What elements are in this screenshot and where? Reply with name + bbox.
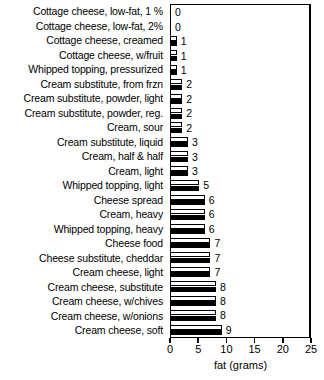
category-label: Cottage cheese, low-fat, 1 % [0, 4, 167, 19]
bar-row: 3 [171, 164, 309, 178]
x-axis-title: fat (grams) [170, 360, 311, 371]
bar-value-label: 1 [177, 36, 187, 47]
bar-value-label: 0 [171, 21, 181, 32]
bar-row: 8 [171, 294, 309, 308]
bar-value-label: 3 [188, 151, 198, 162]
x-tick-label: 20 [277, 344, 289, 355]
bar-row: 0 [171, 19, 309, 33]
bar-segment-solid [171, 157, 188, 162]
bar-row: 7 [171, 236, 309, 250]
bar-segment-solid [171, 243, 210, 248]
bar-value-label: 2 [182, 122, 192, 133]
bar-row: 6 [171, 193, 309, 207]
bar-value-label: 8 [216, 310, 226, 321]
category-label: Cream, light [0, 164, 167, 179]
bar-row: 8 [171, 308, 309, 322]
bar-segment-solid [171, 258, 210, 263]
bar-row: 6 [171, 222, 309, 236]
bar-pair: 7 [171, 238, 309, 249]
bars-layer: 00111222233356667778889 [171, 5, 309, 337]
bar-row: 1 [171, 48, 309, 62]
x-tick-label: 0 [167, 344, 173, 355]
bar-pair: 8 [171, 281, 309, 292]
bar-pair: 6 [171, 223, 309, 234]
category-label: Cheese spread [0, 193, 167, 208]
bar-row: 3 [171, 149, 309, 163]
fat-grams-bar-chart: Cottage cheese, low-fat, 1 %Cottage chee… [0, 0, 324, 380]
bar-row: 5 [171, 178, 309, 192]
bar-segment-solid [171, 128, 182, 133]
bar-row: 8 [171, 279, 309, 293]
bar-segment-solid [171, 215, 205, 220]
bar-value-label: 7 [210, 252, 220, 263]
bar-segment-solid [171, 272, 210, 277]
bar-value-label: 7 [210, 238, 220, 249]
bar-pair: 1 [171, 64, 309, 75]
bar-row: 2 [171, 92, 309, 106]
category-label: Whipped topping, light [0, 178, 167, 193]
category-label: Cream, sour [0, 120, 167, 135]
category-label: Cream cheese, soft [0, 323, 167, 338]
bar-pair: 9 [171, 324, 309, 335]
x-tick-label: 5 [195, 344, 201, 355]
bar-value-label: 6 [205, 224, 215, 235]
bar-value-label: 7 [210, 267, 220, 278]
bar-pair: 2 [171, 108, 309, 119]
bar-row: 0 [171, 5, 309, 19]
bar-segment-outline [171, 325, 222, 330]
bar-segment-solid [171, 114, 182, 119]
bar-value-label: 2 [182, 79, 192, 90]
category-label: Cream cheese, w/chives [0, 294, 167, 309]
bar-value-label: 0 [171, 7, 181, 18]
bar-segment-outline [171, 108, 182, 113]
bar-value-label: 8 [216, 296, 226, 307]
bar-pair: 7 [171, 252, 309, 263]
bar-pair: 1 [171, 50, 309, 61]
bar-row: 1 [171, 34, 309, 48]
bar-value-label: 5 [199, 180, 209, 191]
category-label: Cottage cheese, low-fat, 2% [0, 19, 167, 34]
bar-row: 6 [171, 207, 309, 221]
bar-value-label: 9 [222, 325, 232, 336]
bar-segment-solid [171, 171, 188, 176]
bar-pair: 3 [171, 137, 309, 148]
bar-segment-outline [171, 122, 182, 127]
category-label: Cream cheese, substitute [0, 280, 167, 295]
bar-segment-solid [171, 287, 216, 292]
bar-pair: 1 [171, 36, 309, 47]
bar-segment-solid [171, 186, 199, 191]
category-label: Cream cheese, w/onions [0, 309, 167, 324]
bar-pair: 0 [171, 21, 309, 32]
plot-area: 00111222233356667778889 [170, 4, 311, 338]
bar-segment-outline [171, 267, 210, 272]
bar-value-label: 6 [205, 195, 215, 206]
bar-segment-solid [171, 330, 222, 335]
bar-value-label: 1 [177, 65, 187, 76]
bar-segment-outline [171, 281, 216, 286]
x-tick-label: 10 [220, 344, 232, 355]
bar-segment-outline [171, 224, 205, 229]
bar-pair: 8 [171, 310, 309, 321]
category-label: Cheese substitute, cheddar [0, 251, 167, 266]
category-label: Cheese food [0, 236, 167, 251]
bar-value-label: 2 [182, 94, 192, 105]
bar-segment-outline [171, 79, 182, 84]
category-label: Cream cheese, light [0, 265, 167, 280]
bar-pair: 0 [171, 7, 309, 18]
category-label: Cream, half & half [0, 149, 167, 164]
bar-segment-outline [171, 195, 205, 200]
category-label: Cream substitute, from frzn [0, 77, 167, 92]
bar-row: 3 [171, 135, 309, 149]
bar-segment-outline [171, 252, 210, 257]
x-tick-label: 25 [305, 344, 317, 355]
bar-segment-solid [171, 301, 216, 306]
bar-segment-solid [171, 200, 205, 205]
bar-row: 1 [171, 63, 309, 77]
category-label: Cream substitute, powder, light [0, 91, 167, 106]
bar-value-label: 2 [182, 108, 192, 119]
bar-pair: 5 [171, 180, 309, 191]
bar-segment-outline [171, 151, 188, 156]
category-label: Cottage cheese, creamed [0, 33, 167, 48]
bar-segment-outline [171, 310, 216, 315]
bar-pair: 6 [171, 194, 309, 205]
